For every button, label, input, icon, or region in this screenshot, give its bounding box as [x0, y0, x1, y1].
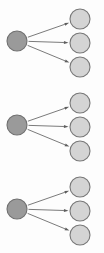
edge-line [28, 41, 63, 42]
node-group-group-1 [7, 9, 90, 77]
arrowhead-icon [64, 23, 69, 26]
target-node-target-2-3[interactable] [70, 141, 90, 161]
edge-line [28, 108, 65, 121]
arrowhead-icon [64, 107, 69, 110]
target-node-target-3-3[interactable] [70, 225, 90, 245]
source-node-source-2[interactable] [7, 115, 27, 135]
edge-line [28, 209, 63, 210]
edge-group-group-2 [28, 107, 70, 147]
target-node-target-1-1[interactable] [70, 9, 90, 29]
arrowhead-icon [64, 125, 69, 128]
source-node-source-3[interactable] [7, 199, 27, 219]
edge-group-group-1 [28, 23, 70, 63]
edges-layer [28, 23, 70, 231]
edge-line [28, 129, 65, 144]
edge-edge-2-1 [28, 107, 69, 121]
edge-edge-1-1 [28, 23, 69, 37]
target-node-target-3-1[interactable] [70, 177, 90, 197]
edge-line [28, 24, 65, 37]
arrowhead-icon [65, 59, 70, 62]
target-node-target-3-2[interactable] [70, 201, 90, 221]
arrowhead-icon [64, 191, 69, 194]
edge-edge-3-3 [28, 213, 70, 230]
edge-line [28, 213, 65, 228]
arrowhead-icon [64, 209, 69, 212]
diagram-canvas [0, 0, 104, 253]
edge-line [28, 45, 65, 60]
edge-edge-3-1 [28, 191, 69, 205]
target-node-target-2-1[interactable] [70, 93, 90, 113]
node-link-diagram [0, 0, 104, 253]
arrowhead-icon [64, 41, 69, 44]
source-node-source-1[interactable] [7, 31, 27, 51]
edge-group-group-3 [28, 191, 70, 231]
edge-edge-1-3 [28, 45, 70, 62]
edge-edge-3-2 [28, 209, 68, 212]
edge-line [28, 192, 65, 205]
edge-edge-1-2 [28, 41, 68, 44]
target-node-target-1-3[interactable] [70, 57, 90, 77]
edge-edge-2-2 [28, 125, 68, 128]
node-group-group-3 [7, 177, 90, 245]
edge-line [28, 125, 63, 126]
node-group-group-2 [7, 93, 90, 161]
target-node-target-1-2[interactable] [70, 33, 90, 53]
edge-edge-2-3 [28, 129, 70, 146]
target-node-target-2-2[interactable] [70, 117, 90, 137]
arrowhead-icon [65, 227, 70, 230]
arrowhead-icon [65, 143, 70, 146]
